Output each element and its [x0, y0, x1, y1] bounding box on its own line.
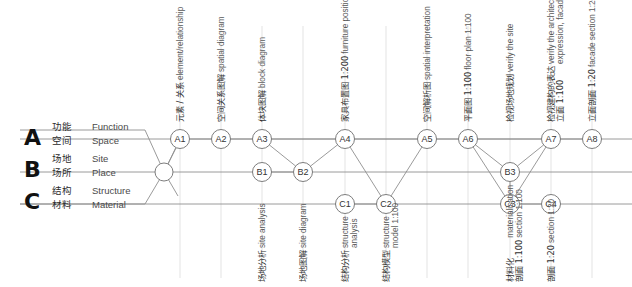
- edge-A4-C2: [350, 147, 381, 196]
- group-letter-b: B: [24, 159, 41, 181]
- legend-label-cn-space: 空间: [52, 133, 86, 147]
- legend-label-cn-function: 功能: [52, 119, 86, 133]
- caption-A4: 家具布置图 1:200furniture position 1:200: [341, 0, 350, 122]
- caption-en-C3: section 1:100: [515, 185, 524, 238]
- caption-C3: 材料化剖面 1:100materialisationsection 1:100: [506, 185, 524, 282]
- caption-cn-A2: 空间关系图解: [217, 74, 226, 122]
- node-A8[interactable]: A8: [583, 130, 602, 149]
- legend-label-cn-material: 材料: [52, 197, 86, 211]
- legend-label-cn-site: 场地: [52, 151, 86, 165]
- diagram-page: A1A2A3A4A5A6A7A8B1B2B3C1C2C3C4 A功能Functi…: [0, 0, 632, 287]
- node-label-A1: A1: [174, 134, 185, 144]
- node-group[interactable]: A1A2A3A4A5A6A7A8B1B2B3C1C2C3C4: [155, 130, 602, 214]
- caption-A7: 检视建构的表达立面 1:100verify the architectonice…: [547, 0, 565, 122]
- caption-en-A4: furniture position 1:200: [341, 0, 350, 54]
- caption-A6: 平面图 1:100floor plan 1:100: [464, 13, 473, 122]
- caption-A3: 体块图解block diagram: [258, 37, 267, 122]
- edge-C2-A5: [391, 147, 422, 196]
- caption-cn-B3: 检视场地规划: [506, 74, 515, 122]
- caption-en-C2: structure: [382, 203, 391, 248]
- legend-label-en-place: Place: [92, 167, 116, 178]
- node-label-A6: A6: [462, 134, 473, 144]
- caption-cn-C1: 结构分析: [341, 250, 350, 282]
- node-label-A8: A8: [586, 134, 597, 144]
- node-label-C1: C1: [339, 199, 351, 209]
- edge-A3-B2: [269, 145, 295, 166]
- legend-label-en-structure: Structure: [92, 185, 131, 196]
- caption-cn-C4: 剖面 1:20: [547, 245, 556, 282]
- caption-en-C2: model 1:100: [391, 203, 400, 248]
- node-A6[interactable]: A6: [459, 130, 478, 149]
- legend-label-cn-structure: 结构: [52, 183, 86, 197]
- caption-B2: 场地图解site diagram: [299, 203, 308, 282]
- caption-en-C1: analysis: [350, 216, 359, 248]
- group-letter-a: A: [24, 127, 41, 149]
- legend-row-space: 空间Space: [52, 133, 148, 147]
- node-C1[interactable]: C1: [336, 195, 355, 214]
- node-A2[interactable]: A2: [212, 130, 231, 149]
- node-B3[interactable]: B3: [501, 163, 520, 182]
- caption-cn-C3: 剖面 1:100: [515, 240, 524, 282]
- caption-en-A2: spatial diagram: [217, 16, 226, 72]
- caption-C4: 剖面 1:20section 1:20: [547, 199, 556, 282]
- node-label-A5: A5: [421, 134, 432, 144]
- node-label-A2: A2: [215, 134, 226, 144]
- caption-A1: 元素 / 关系element/relationship: [176, 7, 185, 122]
- group-letter-c: C: [24, 191, 40, 213]
- caption-cn-B1: 场地分析: [258, 250, 267, 282]
- caption-cn-A4: 家具布置图 1:200: [341, 56, 350, 122]
- legend-row-material: 材料Material: [52, 197, 148, 211]
- node-hub[interactable]: [155, 163, 173, 181]
- caption-cn-A1: 元素 / 关系: [176, 82, 185, 122]
- caption-en-A3: block diagram: [258, 37, 267, 88]
- caption-en-A7: expression, facade 1:100: [556, 0, 565, 64]
- node-A4[interactable]: A4: [336, 130, 355, 149]
- caption-en-B1: site analysis: [258, 203, 267, 248]
- caption-en-C3: materialisation: [506, 185, 515, 238]
- caption-en-A5: spatial interpretation: [423, 6, 432, 80]
- legend-label-cn-place: 场所: [52, 165, 86, 179]
- caption-en-B3: verify the site: [506, 24, 515, 72]
- legend-label-en-site: Site: [92, 153, 108, 164]
- caption-cn-A3: 体块图解: [258, 90, 267, 122]
- caption-cn-A8: 立面剖面 1:20: [588, 69, 597, 122]
- legend-label-en-material: Material: [92, 199, 126, 210]
- node-label-B1: B1: [256, 167, 267, 177]
- legend-row-place: 场所Place: [52, 165, 148, 179]
- edge-hub-A1: [168, 148, 176, 164]
- caption-en-A7: verify the architectonic: [547, 0, 556, 64]
- node-label-B2: B2: [297, 167, 308, 177]
- caption-C2: 结构模型structuremodel 1:100: [382, 203, 400, 282]
- legend-row-function: 功能Function: [52, 119, 148, 133]
- legend-label-en-space: Space: [92, 135, 119, 146]
- caption-en-A1: element/relationship: [176, 7, 185, 80]
- caption-en-C1: structure: [341, 216, 350, 248]
- legend-row-structure: 结构Structure: [52, 183, 148, 197]
- node-B2[interactable]: B2: [294, 163, 313, 182]
- legend-label-en-function: Function: [92, 121, 128, 132]
- caption-en-B2: site diagram: [299, 203, 308, 248]
- caption-A5: 空间解析图spatial interpretation: [423, 6, 432, 122]
- edge-A6-B3: [475, 145, 502, 166]
- caption-cn-A6: 平面图 1:100: [464, 72, 473, 122]
- node-circle-hub[interactable]: [155, 163, 173, 181]
- node-label-B3: B3: [504, 167, 515, 177]
- node-label-A3: A3: [256, 134, 267, 144]
- node-A3[interactable]: A3: [253, 130, 272, 149]
- caption-cn-A7: 立面 1:100: [556, 66, 565, 122]
- node-B1[interactable]: B1: [253, 163, 272, 182]
- caption-C1: 结构分析structureanalysis: [341, 216, 359, 282]
- edge-B2-A4: [310, 145, 337, 166]
- legend-row-site: 场地Site: [52, 151, 148, 165]
- node-label-A4: A4: [339, 134, 350, 144]
- caption-A2: 空间关系图解spatial diagram: [217, 16, 226, 122]
- node-A7[interactable]: A7: [542, 130, 561, 149]
- caption-en-A6: floor plan 1:100: [464, 13, 473, 69]
- caption-en-A8: facade section 1:20: [588, 0, 597, 67]
- caption-cn-C2: 结构模型: [382, 250, 391, 282]
- caption-en-C4: section 1:20: [547, 199, 556, 243]
- caption-B1: 场地分析site analysis: [258, 203, 267, 282]
- caption-A8: 立面剖面 1:20facade section 1:20: [588, 0, 597, 122]
- node-A1[interactable]: A1: [171, 130, 190, 149]
- node-A5[interactable]: A5: [418, 130, 437, 149]
